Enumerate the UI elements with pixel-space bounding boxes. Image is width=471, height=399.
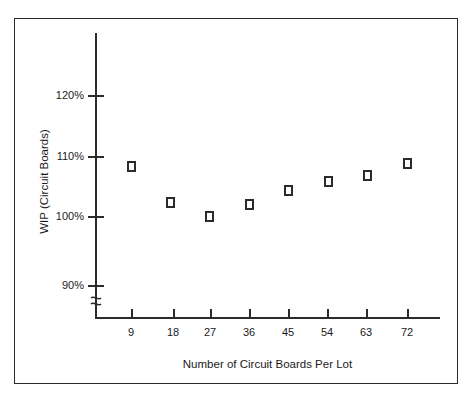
figure-canvas: 120% 110% 100% 90% 9 18 27 36 45 54 63 7… xyxy=(0,0,471,399)
y-tick-label-90: 90% xyxy=(40,280,84,291)
y-tick-mark-120 xyxy=(88,95,104,97)
x-tick-mark-36 xyxy=(249,309,251,319)
x-tick-label-9: 9 xyxy=(111,326,151,338)
x-tick-label-63: 63 xyxy=(346,326,386,338)
x-tick-mark-45 xyxy=(288,309,290,319)
x-axis-title: Number of Circuit Boards Per Lot xyxy=(95,358,440,371)
x-tick-label-45: 45 xyxy=(268,326,308,338)
y-tick-mark-110 xyxy=(88,156,104,158)
x-tick-label-27: 27 xyxy=(190,326,230,338)
x-tick-label-36: 36 xyxy=(229,326,269,338)
x-tick-mark-72 xyxy=(407,309,409,319)
y-tick-label-120: 120% xyxy=(40,90,84,101)
data-point-marker xyxy=(363,170,372,181)
x-tick-mark-54 xyxy=(327,309,329,319)
data-point-marker xyxy=(166,197,175,208)
x-tick-label-18: 18 xyxy=(153,326,193,338)
y-tick-label-wrap-120: 120% xyxy=(32,90,84,101)
data-point-marker xyxy=(284,185,293,196)
x-tick-mark-27 xyxy=(210,309,212,319)
y-tick-mark-90 xyxy=(88,285,104,287)
data-point-marker xyxy=(403,158,412,169)
x-tick-mark-9 xyxy=(131,309,133,319)
y-tick-mark-100 xyxy=(88,216,104,218)
x-tick-label-72: 72 xyxy=(387,326,427,338)
y-axis-break-icon xyxy=(88,293,104,313)
data-point-marker xyxy=(205,211,214,222)
x-tick-mark-63 xyxy=(366,309,368,319)
x-tick-mark-18 xyxy=(173,309,175,319)
y-axis-line xyxy=(95,33,97,318)
y-axis-title: WIP (Circuit Boards) xyxy=(38,102,51,262)
y-tick-label-wrap-90: 90% xyxy=(32,280,84,291)
x-axis-line xyxy=(95,317,440,319)
data-point-marker xyxy=(245,199,254,210)
data-point-marker xyxy=(324,176,333,187)
axis-break-squiggle-icon xyxy=(88,293,104,313)
x-tick-label-54: 54 xyxy=(307,326,347,338)
data-point-marker xyxy=(127,161,136,172)
